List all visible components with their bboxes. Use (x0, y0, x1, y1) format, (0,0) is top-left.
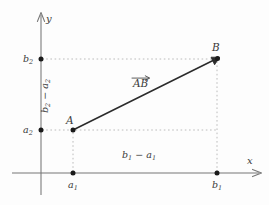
point-label-A: A (66, 115, 74, 126)
point-label-B: B (212, 42, 220, 53)
tick-label-b2: b2 (23, 54, 33, 65)
point-B-dot (215, 56, 220, 61)
tick-dot-b1 (215, 171, 220, 176)
tick-dot-a2 (39, 128, 44, 133)
y-axis-label: y (46, 14, 52, 24)
tick-label-b1: b1 (212, 180, 222, 191)
point-A-dot (71, 128, 76, 133)
tick-dot-a1 (71, 171, 76, 176)
tick-label-a2: a2 (23, 125, 33, 136)
x-axis (12, 169, 262, 176)
vdiff-sub-2: 2 (44, 79, 52, 83)
vdiff-sub-1: 2 (44, 103, 52, 107)
vector-label-AB: AB (133, 78, 148, 89)
vector-AB-line (73, 58, 218, 130)
annotation-horizontal-difference: b1 − a1 (122, 150, 156, 161)
vdiff-main-2: a (39, 83, 50, 89)
vdiff-operator: − (39, 92, 50, 100)
vector-label-letters-wrap: AB (133, 78, 148, 89)
vector-AB-segment (73, 57, 220, 130)
annotation-vertical-difference: b2 − a2 (40, 79, 51, 113)
tick-label-a2-sub: 2 (29, 129, 33, 137)
vector-label-letters: AB (133, 77, 148, 89)
hdiff-operator: − (135, 149, 143, 160)
vdiff-main-1: b (39, 107, 50, 113)
vector-diagram-figure: y x A B a1 b1 a2 b2 b1 − a1 b2 − a2 AB (0, 0, 269, 205)
tick-label-a1-sub: 1 (74, 184, 78, 192)
tick-label-a1: a1 (68, 180, 78, 191)
x-axis-label: x (247, 156, 253, 166)
hdiff-sub-2: 1 (152, 154, 156, 162)
tick-label-b1-sub: 1 (218, 184, 222, 192)
tick-label-b2-sub: 2 (29, 58, 33, 66)
tick-dot-b2 (39, 57, 44, 62)
